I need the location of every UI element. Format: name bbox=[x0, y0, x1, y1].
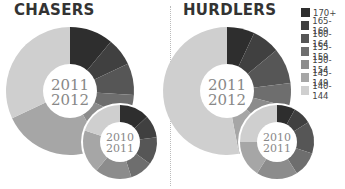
legend-swatch bbox=[301, 34, 309, 43]
chasers-donut-2010-2011: 20102011 bbox=[81, 103, 159, 181]
hurdlers-donut-2010-2011: 20102011 bbox=[238, 103, 316, 181]
center-label-line2: 2011 bbox=[263, 142, 291, 155]
donut-charts: 20112012201020112011201220102011 bbox=[0, 0, 345, 189]
legend-swatch bbox=[301, 86, 309, 95]
legend-swatch bbox=[301, 47, 309, 56]
center-label-line2: 2012 bbox=[51, 91, 89, 109]
legend-swatch bbox=[301, 21, 309, 30]
legend-label: 140-144 bbox=[312, 81, 345, 101]
legend: 170+165-169160-164155-159150-154145-1491… bbox=[301, 6, 345, 97]
legend-swatch bbox=[301, 8, 310, 17]
center-label-line2: 2012 bbox=[208, 91, 246, 109]
legend-swatch bbox=[301, 73, 309, 82]
legend-swatch bbox=[301, 60, 309, 69]
center-label-line2: 2011 bbox=[106, 142, 134, 155]
legend-item: 140-144 bbox=[301, 84, 345, 97]
